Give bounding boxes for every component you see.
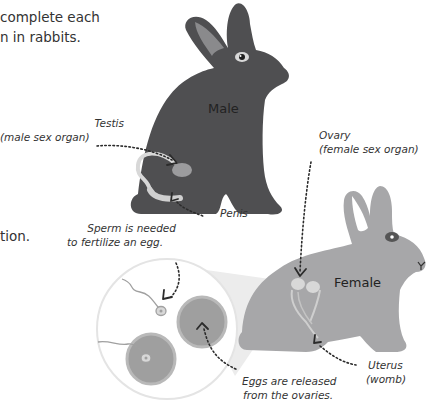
- rabbit-reproduction-diagram: complete each n in rabbits. tion.: [0, 0, 433, 404]
- egg-upper: [178, 297, 226, 347]
- leader-uterus: [320, 346, 356, 365]
- ovary-label-title: Ovary: [319, 129, 350, 142]
- uterus-label-title: Uterus: [368, 359, 403, 372]
- testis-label-desc: (male sex organ): [0, 131, 90, 144]
- testis-label-title: Testis: [63, 117, 124, 130]
- male-label: Male: [208, 101, 239, 116]
- male-testis: [172, 163, 192, 177]
- diagram-graphics: [0, 0, 433, 404]
- penis-label: Penis: [220, 207, 248, 220]
- sperm-label-line-1: Sperm is needed: [78, 222, 176, 235]
- ovary-left: [291, 278, 305, 290]
- sperm-label-line-2: to fertilize an egg.: [67, 236, 163, 249]
- eggs-label-line-1: Eggs are released: [242, 375, 337, 388]
- eggs-label-line-2: from the ovaries.: [243, 389, 333, 402]
- ovary-right: [306, 281, 320, 293]
- uterus-label-desc: (womb): [366, 373, 406, 386]
- ovary-label-desc: (female sex organ): [319, 143, 419, 156]
- female-label: Female: [334, 275, 381, 290]
